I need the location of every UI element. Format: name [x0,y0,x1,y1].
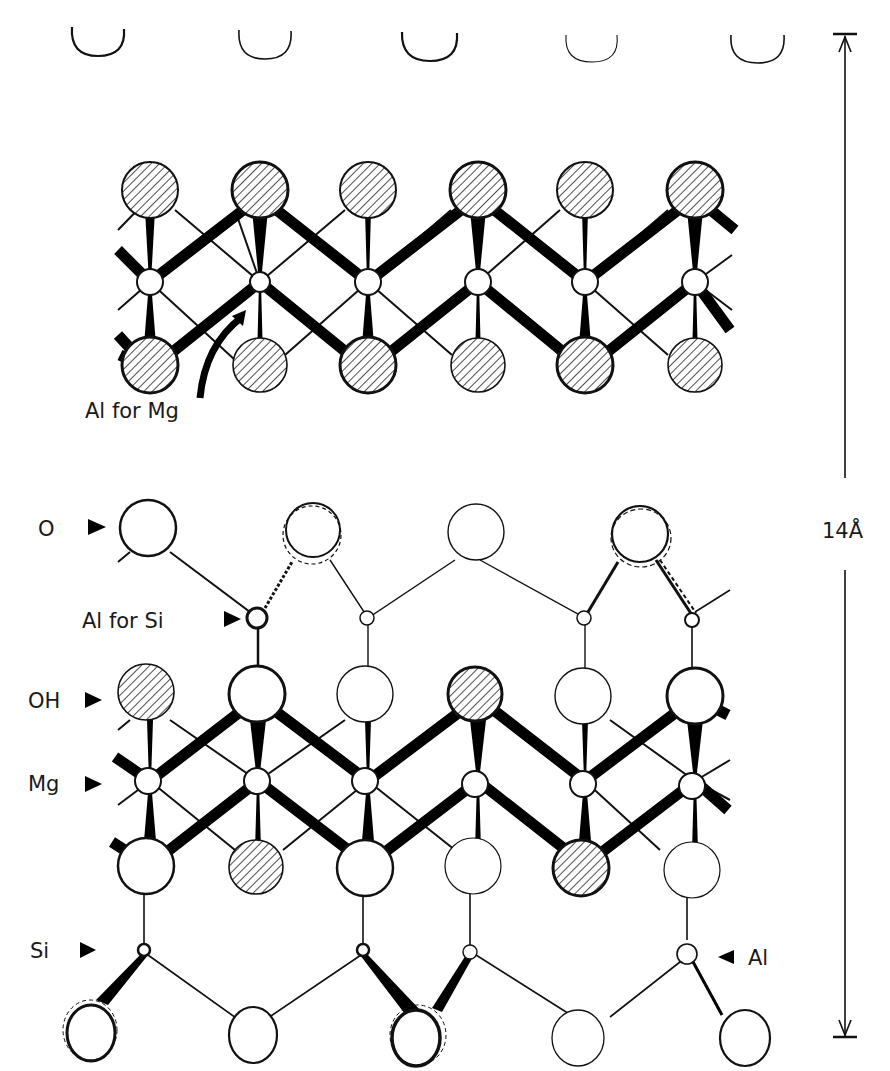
octahedral-cation [682,269,708,295]
label-o: O [38,517,55,541]
oxygen [448,504,504,560]
oxygen [552,1010,604,1066]
tetrahedral-si [463,945,477,959]
pointer-icon [718,950,734,964]
mg-cation [352,768,378,794]
oh-anion [557,337,613,393]
octahedral-cation-al [250,272,270,292]
oh-anion [553,840,609,896]
oh-anion [448,667,502,721]
oh-anion [668,338,722,392]
oxygen [555,668,611,724]
octahedral-cation [137,269,163,295]
oh-anion [232,162,288,218]
oh-anion [122,162,178,218]
talc-layer [63,500,770,1066]
tetrahedral-si [360,611,374,625]
cup-3 [402,32,457,61]
oxygen [445,838,501,894]
oh-anion [451,338,505,392]
cup-2 [239,30,291,59]
oh-anion [118,664,174,720]
pointer-icon [80,942,96,958]
oh-anion [667,162,723,218]
label-al-for-si: Al for Si [82,609,164,633]
mg-cation [679,773,705,799]
oh-anion [229,840,283,894]
octahedral-cation [572,269,598,295]
oxygen [720,1010,770,1066]
mg-cation [244,768,270,794]
label-si: Si [30,939,49,963]
oxygen [120,500,176,556]
oxygen [337,840,393,896]
mg-cation [570,771,596,797]
label-al-for-mg: Al for Mg [85,399,179,423]
label-al: Al [748,946,768,970]
mg-cation [135,768,161,794]
brucite-layer [118,162,735,398]
pointer-icon [85,776,102,792]
oxygen [229,1007,277,1063]
tetrahedral-si [138,944,150,956]
oxygen [229,666,285,722]
chlorite-structure-diagram: Al for Mg [0,0,890,1071]
tetrahedral-si [357,944,369,956]
oh-anion [450,162,506,218]
oh-anion [340,162,396,218]
oxygen [667,668,723,724]
pointer-icon [88,519,106,535]
oh-anion [122,337,178,393]
tetrahedral-si [577,611,591,625]
pointer-icon [224,611,241,627]
oxygen [664,842,720,898]
octahedral-cation [355,269,381,295]
side-labels: O Al for Si OH Mg Si Al [28,517,768,970]
oxygen [612,506,668,562]
oxygen [337,666,393,722]
oh-anion [340,337,396,393]
octahedral-cation [465,269,491,295]
oh-anion [557,162,613,218]
oxygen [118,838,174,894]
label-mg: Mg [28,772,59,796]
interlayer-cups [72,27,784,63]
tetrahedral-al [677,944,697,964]
cup-4 [566,35,617,62]
pointer-icon [85,692,102,708]
tetrahedral-si [685,613,699,627]
cup-1 [72,27,124,56]
mg-cation [462,771,488,797]
oxygen [286,503,340,557]
label-spacing-14a: 14Å [822,517,864,543]
label-oh: OH [28,689,60,713]
oh-anion [233,338,287,392]
cup-5 [731,35,784,63]
tetrahedral-al-for-si [247,608,267,628]
